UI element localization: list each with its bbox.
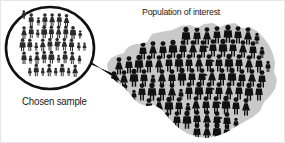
- population-map-layer: [1, 1, 285, 143]
- chosen-sample-caption: Chosen sample: [22, 95, 87, 107]
- population-title: Population of interest: [142, 6, 220, 17]
- sampling-diagram: Population of interest Chosen sample: [0, 0, 285, 143]
- sample-bubble: [6, 7, 94, 89]
